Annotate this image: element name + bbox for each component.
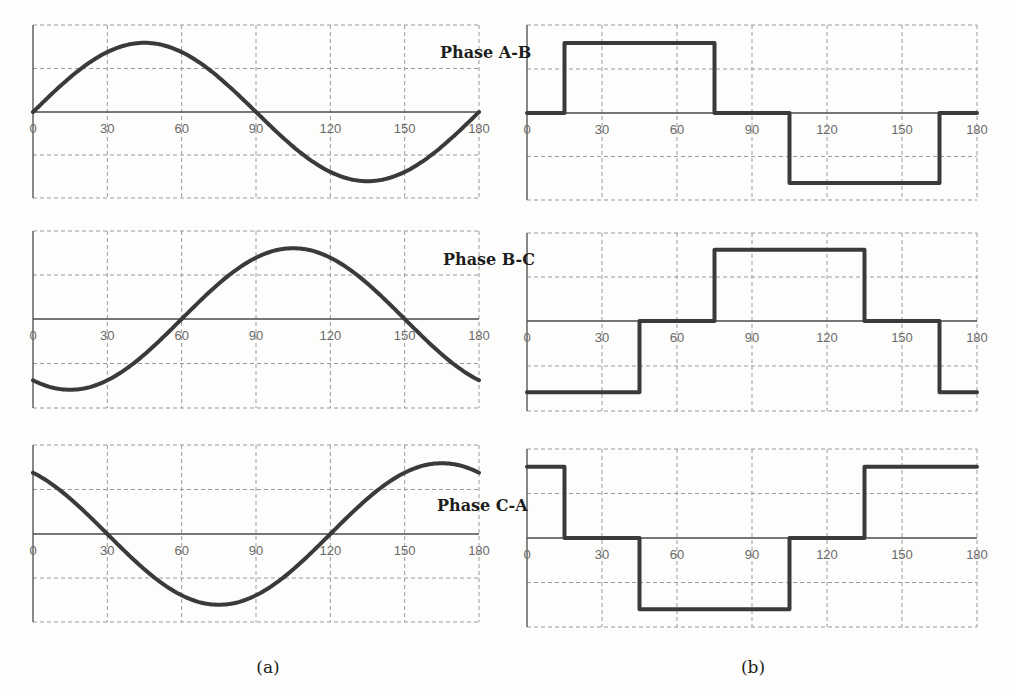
x-tick-label: 120 [319,328,341,343]
waveform-figure: 0306090120150180030609012015018003060901… [0,0,1010,690]
x-tick-label: 60 [670,330,684,345]
x-tick-label: 120 [816,330,838,345]
x-tick-label: 150 [891,122,913,137]
x-tick-label: 60 [174,543,188,558]
x-tick-label: 30 [595,122,609,137]
x-tick-label: 30 [100,121,114,136]
x-tick-label: 150 [891,330,913,345]
caption-a: (a) [256,657,279,677]
x-tick-label: 30 [595,547,609,562]
x-tick-label: 0 [523,330,530,345]
x-tick-label: 60 [174,328,188,343]
x-tick-label: 90 [249,328,263,343]
x-tick-label: 0 [29,543,36,558]
x-tick-label: 120 [319,543,341,558]
x-tick-label: 180 [468,121,490,136]
chart-panel-a-0: 0306090120150180 [29,25,489,198]
chart-panels: 0306090120150180030609012015018003060901… [29,25,987,627]
x-tick-label: 120 [319,121,341,136]
x-tick-label: 150 [394,543,416,558]
chart-panel-b-0: 0306090120150180 [523,25,987,200]
x-tick-label: 30 [595,330,609,345]
x-tick-label: 60 [174,121,188,136]
chart-panel-b-2: 0306090120150180 [523,449,987,627]
x-tick-label: 180 [966,547,988,562]
x-tick-label: 120 [816,547,838,562]
x-tick-label: 180 [468,328,490,343]
chart-panel-a-2: 0306090120150180 [29,445,489,622]
chart-panel-b-1: 0306090120150180 [523,233,987,411]
x-tick-label: 90 [745,547,759,562]
x-tick-label: 90 [249,121,263,136]
x-tick-label: 60 [670,122,684,137]
x-tick-label: 150 [394,121,416,136]
phase-labels: Phase A-B Phase B-C Phase C-A [437,43,535,515]
phase-label-bc: Phase B-C [443,250,535,269]
x-tick-label: 30 [100,328,114,343]
x-tick-label: 0 [523,122,530,137]
x-tick-label: 60 [670,547,684,562]
caption-b: (b) [741,657,765,677]
x-tick-label: 120 [816,122,838,137]
x-tick-label: 180 [966,122,988,137]
x-tick-label: 150 [394,328,416,343]
phase-label-ab: Phase A-B [440,43,531,62]
phase-label-ca: Phase C-A [437,496,528,515]
x-tick-label: 90 [249,543,263,558]
x-tick-label: 180 [966,330,988,345]
x-tick-label: 180 [468,543,490,558]
x-tick-label: 0 [29,328,36,343]
x-tick-label: 90 [745,330,759,345]
x-tick-label: 0 [523,547,530,562]
x-tick-label: 30 [100,543,114,558]
chart-panel-a-1: 0306090120150180 [29,231,489,408]
x-tick-label: 150 [891,547,913,562]
x-tick-label: 90 [745,122,759,137]
x-tick-label: 0 [29,121,36,136]
